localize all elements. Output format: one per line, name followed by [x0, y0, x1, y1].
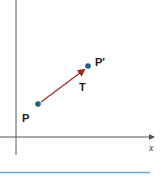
- x-axis-label: x: [148, 142, 154, 153]
- point-p-prime: [85, 63, 91, 69]
- point-p-label: P: [22, 112, 29, 124]
- translation-vector-arrow: [41, 70, 84, 102]
- vector-label: T: [79, 81, 86, 93]
- point-p-prime-label: P′: [95, 56, 105, 68]
- point-p: [35, 101, 41, 107]
- translation-diagram: x T P P′: [0, 0, 166, 180]
